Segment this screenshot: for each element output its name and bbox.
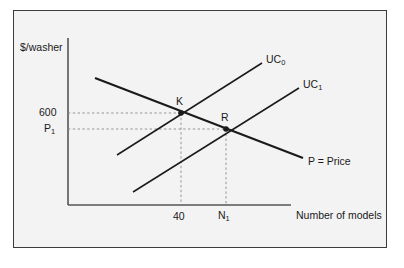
- y-tick-label-600: 600: [39, 107, 57, 118]
- x-tick-label-n1-subscript: 1: [226, 214, 230, 223]
- y-tick-label-p1-subscript: 1: [51, 127, 55, 136]
- curve-label-price: P = Price: [308, 156, 351, 167]
- x-tick-label-n1-text: N: [218, 209, 226, 221]
- point-k-marker: [178, 110, 184, 116]
- axis-lines: [68, 38, 291, 205]
- x-tick-label-n1: N1: [218, 210, 230, 221]
- point-label-r: R: [221, 112, 229, 123]
- curve-uc0: [117, 63, 262, 155]
- reference-lines: [68, 113, 226, 205]
- curve-label-uc1: UC1: [303, 79, 322, 90]
- curve-label-uc0-subscript: 0: [281, 58, 285, 67]
- curve-uc1: [133, 88, 299, 192]
- y-tick-label-p1-text: P: [44, 122, 51, 134]
- curve-label-uc0-text: UC: [266, 53, 281, 65]
- point-r-marker: [223, 126, 229, 132]
- curve-label-uc1-subscript: 1: [318, 83, 322, 92]
- curve-price: [95, 78, 303, 158]
- curve-label-uc1-text: UC: [303, 78, 318, 90]
- y-axis-label: $/washer: [20, 42, 63, 53]
- point-label-k: K: [176, 96, 183, 107]
- x-tick-label-40: 40: [173, 211, 185, 222]
- curve-label-uc0: UC0: [266, 54, 285, 65]
- figure-root: $/washer Number of models 600 P1 40 N1 U…: [0, 0, 404, 268]
- x-axis-label: Number of models: [296, 210, 382, 221]
- y-tick-label-p1: P1: [44, 123, 55, 134]
